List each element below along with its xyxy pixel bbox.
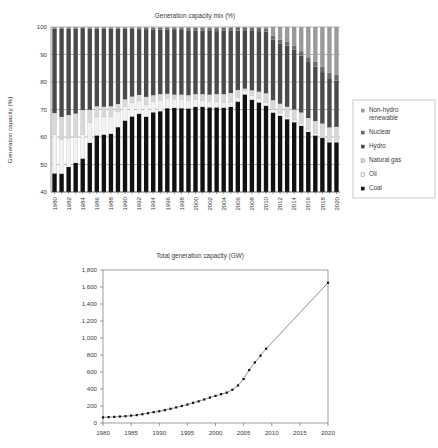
bar-segment-non-hydro-renewable <box>165 27 169 28</box>
bar-segment-non-hydro-renewable <box>222 27 226 28</box>
bottom-chart-data-point <box>153 411 155 413</box>
bar-segment-nuclear <box>278 40 282 44</box>
stacked-bar <box>327 27 331 194</box>
bottom-chart-data-point <box>265 348 267 350</box>
bar-segment-oil <box>172 99 176 108</box>
legend-label: Hydro <box>369 142 386 150</box>
bottom-chart-y-tick-label: 1,600 <box>82 283 98 290</box>
bottom-chart-title: Total generation capacity (GW) <box>156 252 244 260</box>
bar-segment-hydro <box>151 30 155 95</box>
bar-segment-oil <box>334 141 338 143</box>
bar-segment-natural-gas <box>313 121 317 133</box>
bar-segment-oil <box>313 133 317 135</box>
bar-segment-oil <box>193 100 197 107</box>
bar-segment-hydro <box>229 31 233 93</box>
bar-segment-natural-gas <box>66 115 70 138</box>
bar-segment-coal <box>313 135 317 192</box>
stacked-bar <box>193 27 197 194</box>
bar-segment-natural-gas <box>207 95 211 102</box>
top-chart-y-tick-label: 80 <box>40 78 47 85</box>
bottom-chart-y-tick-label: 400 <box>87 385 98 392</box>
bar-segment-non-hydro-renewable <box>59 27 63 28</box>
bar-segment-natural-gas <box>73 114 77 138</box>
bar-segment-oil <box>123 106 127 120</box>
bar-segment-nuclear <box>285 42 289 46</box>
bar-segment-coal <box>81 158 85 192</box>
stacked-bar <box>243 27 247 194</box>
bar-segment-oil <box>144 105 148 117</box>
stacked-bar <box>179 27 183 194</box>
bar-segment-oil <box>299 124 303 126</box>
bottom-chart-data-point <box>243 378 245 380</box>
bar-segment-hydro <box>88 28 92 109</box>
bar-segment-oil <box>278 113 282 116</box>
bar-segment-coal <box>73 163 77 192</box>
bar-segment-oil <box>243 90 247 94</box>
bar-segment-hydro <box>144 29 148 97</box>
bar-segment-coal <box>151 112 155 192</box>
bottom-chart-x-tick-label: 2020 <box>321 429 335 436</box>
bottom-chart-y-tick-label: 1,000 <box>82 334 98 341</box>
bar-segment-nuclear <box>179 28 183 30</box>
bar-segment-hydro <box>200 31 204 95</box>
bar-segment-coal <box>172 108 176 192</box>
bar-segment-coal <box>52 173 56 192</box>
bar-segment-oil <box>81 134 85 158</box>
bar-segment-nuclear <box>320 67 324 72</box>
stacked-bar <box>158 27 162 194</box>
bottom-chart-data-point <box>158 410 160 412</box>
stacked-bar <box>278 27 282 194</box>
legend-label: Coal <box>369 184 382 191</box>
bar-segment-oil <box>214 102 218 108</box>
bar-segment-hydro <box>278 44 282 104</box>
stacked-bar <box>285 27 289 194</box>
bar-segment-natural-gas <box>236 90 240 97</box>
bar-segment-oil <box>264 102 268 105</box>
stacked-bar <box>292 27 296 194</box>
stacked-bar <box>334 27 338 194</box>
bar-segment-non-hydro-renewable <box>88 27 92 28</box>
legend-label: Non-hydro <box>369 106 399 114</box>
bottom-chart-data-point <box>327 282 329 284</box>
bar-segment-non-hydro-renewable <box>151 27 155 28</box>
bar-segment-non-hydro-renewable <box>172 27 176 28</box>
bar-segment-non-hydro-renewable <box>229 27 233 28</box>
bar-segment-natural-gas <box>116 104 120 112</box>
bar-segment-hydro <box>207 31 211 95</box>
bottom-chart-data-point <box>124 415 126 417</box>
bar-segment-non-hydro-renewable <box>250 27 254 28</box>
legend: Non-hydrorenewableNuclearHydroNatural ga… <box>353 100 435 198</box>
top-chart-x-tick-label: 1988 <box>107 196 114 210</box>
stacked-bar <box>264 27 268 194</box>
bar-segment-oil <box>109 117 113 134</box>
bar-segment-coal <box>320 138 324 192</box>
bar-segment-nuclear <box>243 27 247 30</box>
bar-segment-nuclear <box>313 62 317 67</box>
bar-segment-oil <box>222 102 226 107</box>
bar-segment-natural-gas <box>186 95 190 101</box>
top-chart-y-tick-label: 60 <box>40 133 47 140</box>
bottom-chart-data-point <box>169 408 171 410</box>
bar-segment-hydro <box>66 28 70 115</box>
legend-swatch <box>361 145 365 149</box>
bar-segment-natural-gas <box>193 94 197 100</box>
bar-segment-natural-gas <box>292 110 296 120</box>
bar-segment-hydro <box>222 31 226 94</box>
stacked-bar <box>172 27 176 194</box>
bar-segment-non-hydro-renewable <box>144 27 148 28</box>
bar-segment-nuclear <box>123 28 127 29</box>
bottom-chart-y-tick-label: 1,400 <box>82 300 98 307</box>
bottom-chart-data-point <box>147 412 149 414</box>
bar-segment-nuclear <box>137 28 141 29</box>
legend-swatch <box>361 173 365 177</box>
bar-segment-natural-gas <box>264 93 268 102</box>
bar-segment-coal <box>327 142 331 192</box>
bar-segment-non-hydro-renewable <box>158 27 162 28</box>
bar-segment-coal <box>144 117 148 192</box>
top-chart-x-tick-label: 2010 <box>262 196 269 210</box>
bar-segment-oil <box>165 99 169 109</box>
bar-segment-nuclear <box>130 28 134 29</box>
bar-segment-natural-gas <box>59 117 63 140</box>
figure-background <box>0 0 438 448</box>
bottom-chart-data-point <box>102 416 104 418</box>
